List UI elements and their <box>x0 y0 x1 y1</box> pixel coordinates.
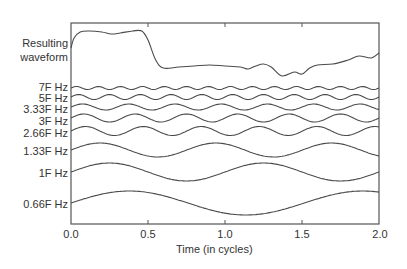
wave-3-33f-hz <box>71 104 379 110</box>
x-tick-label-0: 0.0 <box>63 228 78 240</box>
wave-7f-hz <box>71 87 379 90</box>
label-2-66f: 2.66F Hz <box>23 127 68 139</box>
label-3f: 3F Hz <box>39 115 68 127</box>
x-axis-title: Time (in cycles) <box>176 243 253 255</box>
label-0-66f: 0.66F Hz <box>23 198 68 210</box>
wave-1-33f-hz <box>71 143 379 157</box>
label-resulting-line1: Resulting <box>22 37 68 49</box>
x-tick-label-2-0: 2.0 <box>372 228 387 240</box>
wave-resulting-waveform <box>71 30 379 76</box>
wave-series-group <box>71 30 379 215</box>
x-tick-label-0-5: 0.5 <box>140 228 155 240</box>
label-1-33f: 1.33F Hz <box>23 145 68 157</box>
wave-1f-hz <box>71 163 379 181</box>
x-tick-label-1-5: 1.5 <box>294 228 309 240</box>
x-tick-label-1-0: 1.0 <box>217 228 232 240</box>
chart: Resulting waveform 7F Hz 5F Hz 3.33F Hz … <box>0 0 407 269</box>
label-3-33f: 3.33F Hz <box>23 103 68 115</box>
label-resulting-line2: waveform <box>19 51 68 63</box>
plot-frame <box>71 23 379 224</box>
series-labels: Resulting waveform 7F Hz 5F Hz 3.33F Hz … <box>19 37 68 210</box>
wave-2-66f-hz <box>71 127 379 136</box>
x-axis-labels: 0.0 0.5 1.0 1.5 2.0 Time (in cycles) <box>63 228 387 255</box>
wave-5f-hz <box>71 95 379 100</box>
wave-3f-hz <box>71 114 379 122</box>
wave-0-66f-hz <box>71 191 379 215</box>
label-1f: 1F Hz <box>39 167 68 179</box>
